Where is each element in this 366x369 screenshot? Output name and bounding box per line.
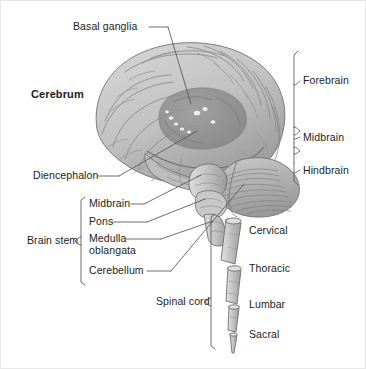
label-cerebrum: Cerebrum (31, 89, 84, 101)
label-midbrain: Midbrain (303, 132, 344, 144)
label-sacral: Sacral (249, 329, 279, 341)
label-diencephalon: Diencephalon (33, 170, 98, 182)
leader-midbrain-stem (131, 175, 201, 204)
label-forebrain: Forebrain (303, 75, 349, 87)
leader-lines-and-brackets (1, 1, 366, 369)
label-pons: Pons (89, 216, 113, 228)
divisions-bracket (294, 51, 300, 185)
label-hindbrain: Hindbrain (303, 165, 349, 177)
spinal-cord-bracket (205, 214, 215, 349)
label-brain-stem: Brain stem (27, 235, 78, 247)
label-cerebellum: Cerebellum (89, 265, 144, 277)
label-cervical: Cervical (249, 225, 288, 237)
label-thoracic: Thoracic (249, 263, 290, 275)
label-medulla-line2: oblangata (89, 245, 136, 257)
label-medulla-line1: Medulla (89, 233, 126, 245)
brain-anatomy-diagram: Basal ganglia Cerebrum Diencephalon Brai… (0, 0, 366, 369)
label-spinal-cord: Spinal cord (156, 296, 210, 308)
label-midbrain-stem: Midbrain (89, 198, 130, 210)
label-lumbar: Lumbar (249, 299, 285, 311)
leader-basal-ganglia (149, 27, 191, 104)
leader-diencephalon (98, 131, 197, 176)
label-basal-ganglia: Basal ganglia (73, 21, 137, 33)
